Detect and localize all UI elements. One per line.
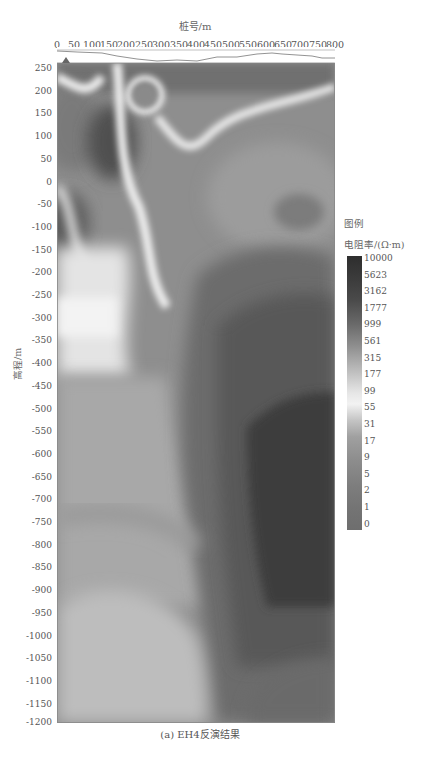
y-tick: -1100 <box>26 676 52 686</box>
figure-caption: (a) EH4反演结果 <box>100 726 300 741</box>
y-tick: -900 <box>32 585 52 595</box>
resistivity-section-plot <box>57 47 335 723</box>
colorbar-tick: 55 <box>364 402 375 412</box>
colorbar-tick: 561 <box>364 336 381 346</box>
y-tick: 250 <box>35 63 52 73</box>
y-tick: -100 <box>32 222 52 232</box>
colorbar-tick: 99 <box>364 386 375 396</box>
colorbar-tick: 2 <box>364 485 370 495</box>
colorbar-ticks: 10000 5623 3162 1777 999 561 315 177 99 … <box>364 256 424 530</box>
y-tick: -850 <box>32 562 52 572</box>
y-tick: 0 <box>46 177 52 187</box>
y-tick: 50 <box>41 154 52 164</box>
colorbar-tick: 1 <box>364 502 370 512</box>
y-tick: 150 <box>35 108 52 118</box>
colorbar-tick: 177 <box>364 369 381 379</box>
colorbar-tick: 17 <box>364 436 375 446</box>
colorbar-tick: 31 <box>364 419 375 429</box>
y-tick: -450 <box>32 381 52 391</box>
y-axis-ticks: 250 200 150 100 50 0 -50 -100 -150 -200 … <box>0 0 56 761</box>
y-tick: -950 <box>32 608 52 618</box>
y-axis-title: 高程/m <box>10 348 24 380</box>
y-tick: -750 <box>32 517 52 527</box>
legend-unit-label: 电阻率/(Ω·m) <box>344 237 405 251</box>
colorbar-tick: 10000 <box>364 253 393 263</box>
x-axis-title: 桩号/m <box>150 18 240 33</box>
y-tick: -800 <box>32 540 52 550</box>
y-tick: -700 <box>32 494 52 504</box>
y-tick: -650 <box>32 472 52 482</box>
colorbar-tick: 5623 <box>364 270 387 280</box>
y-tick: -1200 <box>26 717 52 727</box>
y-tick: 100 <box>35 131 52 141</box>
y-tick: -50 <box>38 199 53 209</box>
y-tick: -1050 <box>26 653 52 663</box>
colorbar-tick: 315 <box>364 353 381 363</box>
colorbar-tick: 0 <box>364 519 370 529</box>
y-tick: -500 <box>32 404 52 414</box>
y-tick: -1000 <box>26 631 52 641</box>
y-tick: -250 <box>32 290 52 300</box>
y-tick: -150 <box>32 245 52 255</box>
y-tick: -200 <box>32 267 52 277</box>
colorbar-tick: 9 <box>364 452 370 462</box>
y-tick: -350 <box>32 335 52 345</box>
y-tick: -400 <box>32 358 52 368</box>
y-tick: 200 <box>35 86 52 96</box>
colorbar-tick: 5 <box>364 469 370 479</box>
colorbar-tick: 3162 <box>364 286 387 296</box>
y-tick: -1150 <box>26 699 52 709</box>
colorbar <box>347 256 362 530</box>
colorbar-tick: 1777 <box>364 303 387 313</box>
legend-title: 图例 <box>344 216 364 230</box>
colorbar-tick: 999 <box>364 319 381 329</box>
y-tick: -600 <box>32 449 52 459</box>
y-tick: -550 <box>32 426 52 436</box>
y-tick: -300 <box>32 313 52 323</box>
